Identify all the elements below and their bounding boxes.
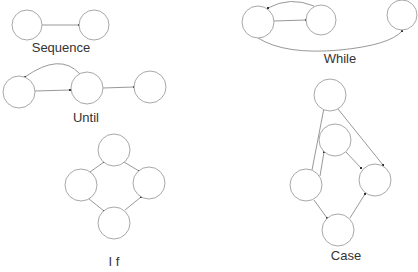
case-node-left — [290, 169, 322, 201]
case-edge-bottom-right — [350, 194, 365, 218]
if-node-right — [133, 167, 165, 199]
while-label: While — [324, 51, 357, 66]
control-flow-diagrams: Sequence While Until I f — [0, 0, 418, 272]
while-edge-back — [268, 1, 314, 8]
until-node-2 — [71, 72, 103, 104]
case-node-mid — [319, 124, 351, 156]
until-edge-1 — [35, 90, 70, 91]
while-diagram: While — [242, 0, 417, 66]
sequence-node-1 — [12, 10, 42, 40]
case-node-top — [314, 79, 346, 111]
case-node-right — [359, 164, 391, 196]
if-node-left — [65, 169, 97, 201]
if-label: I f — [109, 254, 120, 269]
case-node-bottom — [322, 214, 354, 246]
case-edge-left-bottom — [314, 200, 327, 218]
sequence-node-2 — [79, 10, 109, 40]
case-edge-left-mid — [320, 152, 324, 176]
case-label: Case — [331, 248, 361, 263]
if-edge-left-top — [90, 162, 104, 172]
until-edge-2 — [103, 87, 134, 88]
if-edge-bottom-right — [125, 197, 141, 210]
case-diagram: Case — [290, 79, 391, 263]
if-diagram: I f — [65, 134, 165, 269]
if-node-top — [98, 134, 130, 166]
while-edge-forward — [274, 20, 306, 21]
if-edge-top-right — [124, 162, 139, 171]
while-node-2 — [306, 5, 336, 35]
until-label: Until — [73, 110, 99, 125]
while-node-3 — [387, 0, 417, 30]
until-diagram: Until — [3, 64, 166, 125]
if-edge-left-bottom — [89, 199, 104, 211]
while-node-1 — [242, 6, 274, 38]
until-edge-loop — [25, 64, 80, 77]
while-edge-exit — [258, 31, 402, 51]
sequence-diagram: Sequence — [12, 10, 109, 55]
case-edge-mid-right — [346, 152, 361, 168]
until-node-1 — [3, 76, 35, 108]
until-node-3 — [134, 71, 166, 103]
sequence-label: Sequence — [32, 40, 91, 55]
if-node-bottom — [98, 207, 130, 239]
